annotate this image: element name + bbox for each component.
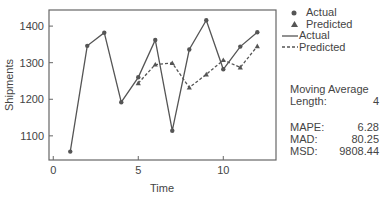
x-tick-label: 10 [217,164,229,176]
msd-value: 9808.44 [339,145,379,157]
triangle-marker-icon [187,85,192,90]
y-tick-label: 1200 [20,93,44,105]
circle-marker-icon [136,75,140,79]
circle-marker-icon [286,10,302,16]
x-axis-label: Time [150,182,174,194]
triangle-marker-icon [286,21,302,27]
solid-line-icon [282,34,298,38]
circle-marker-icon [187,47,191,51]
legend: Actual Predicted Actual Predicted [286,7,352,53]
circle-marker-icon [85,44,89,48]
length-value: 4 [373,95,379,107]
dashed-line-icon [282,45,298,49]
circle-marker-icon [102,30,106,34]
circle-marker-icon [170,129,174,133]
y-tick-label: 1300 [20,57,44,69]
circle-marker-icon [68,149,72,153]
plot-border [49,10,276,160]
legend-item-actual-line: Actual [286,30,352,42]
x-tick-label: 0 [50,164,56,176]
data-series [68,18,260,154]
circle-marker-icon [153,38,157,42]
x-tick-label: 5 [135,164,141,176]
y-tick-label: 1100 [20,130,44,142]
legend-label: Predicted [299,42,345,54]
plot-frame [49,10,276,160]
method-label: Moving Average [290,83,369,95]
circle-marker-icon [204,18,208,22]
legend-item-predicted-line: Predicted [286,42,352,54]
circle-marker-icon [221,67,225,71]
legend-label: Actual [306,7,337,19]
series-line-actual [70,20,257,151]
mape-value: 6.28 [358,121,379,133]
y-axis-label: Shipments [3,59,15,111]
circle-marker-icon [255,30,259,34]
mad-value: 80.25 [351,133,379,145]
length-label: Length: [290,95,327,107]
triangle-marker-icon [255,44,260,49]
method-info: Moving Average Length: 4 [290,83,379,107]
accuracy-measures: MAPE: 6.28 MAD: 80.25 MSD: 9808.44 [290,121,379,157]
mad-label: MAD: [290,133,318,145]
mape-label: MAPE: [290,121,324,133]
msd-label: MSD: [290,145,318,157]
circle-marker-icon [119,100,123,104]
y-tick-label: 1400 [20,20,44,32]
circle-marker-icon [238,44,242,48]
triangle-marker-icon [221,58,226,63]
legend-item-actual-marker: Actual [286,7,352,19]
legend-label: Actual [299,30,330,42]
